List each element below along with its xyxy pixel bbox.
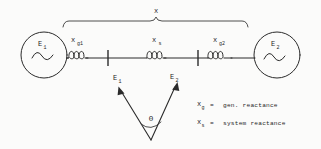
circuit-diagram-figure: x E 1 x g1 x s x xyxy=(0,0,321,149)
generator-right: E 2 xyxy=(254,32,300,78)
generator-left: E 1 xyxy=(21,32,67,78)
phasor-e2-subscript: 2 xyxy=(175,78,178,84)
reactance-s-label: x xyxy=(152,36,156,44)
legend-row-0-subscript: g xyxy=(201,105,204,111)
diagram-canvas: x E 1 x g1 x s x xyxy=(0,0,321,149)
phasor-e1-line xyxy=(121,91,151,140)
legend-row: x s = system reactance xyxy=(197,118,286,129)
coil-g2-icon xyxy=(208,51,232,58)
coil-g1-icon xyxy=(67,51,88,58)
generator-right-subscript: 2 xyxy=(276,45,279,51)
brace-path xyxy=(63,17,248,27)
generator-right-circle xyxy=(254,32,300,78)
legend-row-1-description: system reactance xyxy=(223,120,286,127)
phasor-e1-subscript: 1 xyxy=(118,79,121,85)
phasor-e1-arrowhead xyxy=(118,87,125,96)
phasor-e2-line xyxy=(151,87,175,140)
sine-wave-icon xyxy=(264,53,285,60)
span-brace: x xyxy=(63,7,248,27)
legend-row-0-equals: = xyxy=(210,102,214,109)
legend: x g = gen. reactance x s = system reacta… xyxy=(197,100,286,129)
legend-row: x g = gen. reactance xyxy=(197,100,278,111)
reactance-g2-subscript: g2 xyxy=(219,41,225,47)
generator-right-label: E xyxy=(271,40,275,48)
generator-left-circle xyxy=(21,32,67,78)
legend-row-0-symbol: x xyxy=(197,100,201,108)
reactance-g1: x g1 xyxy=(67,36,88,59)
legend-row-1-subscript: s xyxy=(201,123,204,129)
legend-row-1-symbol: x xyxy=(197,118,201,126)
phasor-e2-label: E xyxy=(170,73,174,81)
angle-theta-label: Θ xyxy=(149,115,154,123)
generator-left-label: E xyxy=(38,40,42,48)
reactance-g1-label: x xyxy=(71,36,75,44)
brace-label: x xyxy=(154,7,158,15)
reactance-s: x s xyxy=(147,36,166,59)
reactance-g2: x g2 xyxy=(208,36,232,59)
legend-row-1-equals: = xyxy=(210,120,214,127)
reactance-g2-label: x xyxy=(213,36,217,44)
sine-wave-icon xyxy=(32,52,53,59)
phasor-diagram: E 1 E 2 Θ xyxy=(113,73,179,140)
reactance-g1-subscript: g1 xyxy=(77,41,83,47)
phasor-e1-label: E xyxy=(113,74,117,82)
coil-s-icon xyxy=(147,51,166,58)
legend-row-0-description: gen. reactance xyxy=(223,102,278,109)
generator-left-subscript: 1 xyxy=(43,45,46,51)
reactance-s-subscript: s xyxy=(158,41,161,47)
